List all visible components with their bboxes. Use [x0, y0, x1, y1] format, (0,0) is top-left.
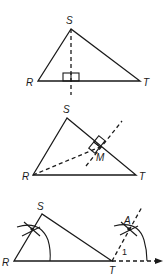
figure-construction: S R T A 1 [2, 201, 163, 275]
segment-rm [33, 147, 100, 175]
intersection-point-r [30, 227, 33, 230]
label-s-3: S [37, 201, 44, 212]
label-s-1: S [66, 15, 73, 26]
figure-perpendicular: S R T M [22, 104, 146, 182]
geometry-diagram: S R T S R T M S R T A 1 [0, 0, 167, 275]
label-t-3: T [109, 265, 116, 275]
label-r-2: R [22, 171, 29, 182]
label-r-3: R [2, 257, 9, 268]
label-t-2: T [139, 171, 146, 182]
label-r-1: R [26, 77, 33, 88]
label-s-2: S [63, 104, 70, 115]
label-angle-1: 1 [122, 247, 127, 257]
arrow-head-icon [155, 258, 163, 264]
triangle-rst-2 [33, 118, 136, 175]
label-t-1: T [143, 77, 150, 88]
triangle-rst-1 [38, 29, 140, 81]
triangle-rst-3 [14, 214, 112, 261]
label-m: M [96, 152, 105, 163]
figure-altitude: S R T [26, 15, 150, 95]
label-a: A [123, 215, 131, 226]
